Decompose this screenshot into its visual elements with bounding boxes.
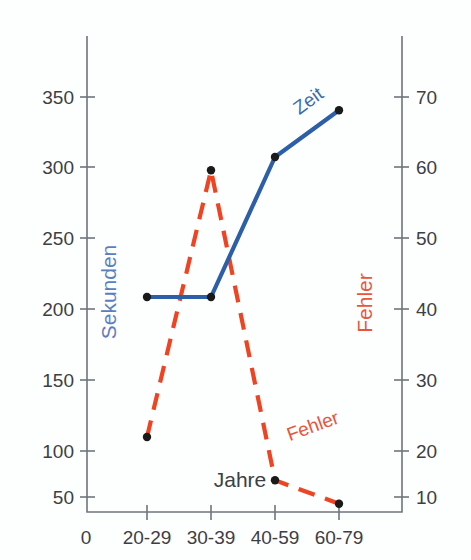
- left-tick-label-50: 50: [53, 487, 74, 508]
- series-zeit-point-3: [335, 106, 343, 114]
- series-fehler-point-0: [143, 433, 151, 441]
- series-fehler-point-1: [207, 166, 215, 174]
- x-tick-label-40-59: 40-59: [251, 527, 300, 548]
- series-zeit: [143, 106, 343, 301]
- series-zeit-point-2: [271, 153, 279, 161]
- left-tick-label-250: 250: [42, 228, 74, 249]
- right-tick-label-30: 30: [416, 370, 437, 391]
- right-axis-title-fehler: Fehler: [353, 273, 376, 333]
- series-zeit-line: [147, 110, 339, 297]
- right-tick-label-60: 60: [416, 157, 437, 178]
- series-fehler-point-3: [335, 500, 343, 508]
- series-zeit-point-1: [207, 293, 215, 301]
- right-tick-label-70: 70: [416, 87, 437, 108]
- x-axis-title: Jahre: [214, 468, 267, 491]
- left-tick-label-200: 200: [42, 299, 74, 320]
- x-axis-tick-labels: 0 20-29 30-39 40-59 60-79: [81, 527, 364, 548]
- series-label-fehler: Fehler: [284, 407, 342, 445]
- x-tick-label-30-39: 30-39: [187, 527, 236, 548]
- right-tick-label-10: 10: [416, 487, 437, 508]
- right-tick-label-40: 40: [416, 299, 437, 320]
- right-tick-label-50: 50: [416, 228, 437, 249]
- series-label-zeit: Zeit: [289, 83, 328, 119]
- x-tick-label-20-29: 20-29: [123, 527, 172, 548]
- left-tick-label-350: 350: [42, 87, 74, 108]
- right-axis-tick-labels: 70 60 50 40 30 20 10: [416, 87, 437, 508]
- chart-container: 350 300 250 200 150 100 50 70 60 50 40 3…: [0, 0, 471, 560]
- series-fehler: [143, 166, 343, 508]
- series-fehler-point-2: [271, 476, 279, 484]
- left-tick-label-150: 150: [42, 370, 74, 391]
- right-tick-label-20: 20: [416, 441, 437, 462]
- left-tick-label-100: 100: [42, 441, 74, 462]
- left-tick-label-300: 300: [42, 157, 74, 178]
- left-axis-title-sekunden: Sekunden: [97, 245, 120, 340]
- x-tick-label-60-79: 60-79: [315, 527, 364, 548]
- x-tick-label-origin: 0: [81, 527, 92, 548]
- series-zeit-point-0: [143, 293, 151, 301]
- left-axis-tick-labels: 350 300 250 200 150 100 50: [42, 87, 74, 508]
- line-chart: 350 300 250 200 150 100 50 70 60 50 40 3…: [0, 0, 471, 560]
- series-fehler-line: [147, 170, 339, 503]
